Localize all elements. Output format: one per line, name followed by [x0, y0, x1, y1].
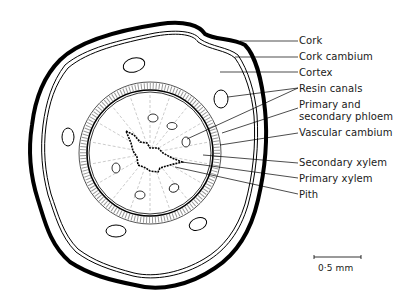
scale-bar	[314, 255, 361, 259]
scale-bar-label: 0·5 mm	[318, 263, 353, 274]
label-phloem-line1: Primary and	[299, 99, 361, 110]
stem-section-drawing	[0, 0, 408, 304]
resin-canal	[106, 225, 126, 237]
label-cortex: Cortex	[299, 67, 333, 78]
resin-canal	[214, 90, 228, 108]
label-cork-cambium: Cork cambium	[299, 51, 373, 62]
resin-canal	[122, 55, 147, 74]
leader-lines	[175, 41, 298, 194]
label-cork: Cork	[299, 35, 322, 46]
label-resin-canals: Resin canals	[299, 83, 362, 94]
label-vascular-cambium: Vascular cambium	[299, 127, 393, 138]
pith	[126, 131, 182, 172]
label-secondary-xylem: Secondary xylem	[299, 157, 387, 168]
label-pith: Pith	[299, 189, 318, 200]
resin-canal	[62, 128, 74, 146]
label-phloem-line2: secondary phloem	[299, 111, 393, 122]
label-primary-xylem: Primary xylem	[299, 173, 373, 184]
resin-canal	[187, 215, 208, 232]
